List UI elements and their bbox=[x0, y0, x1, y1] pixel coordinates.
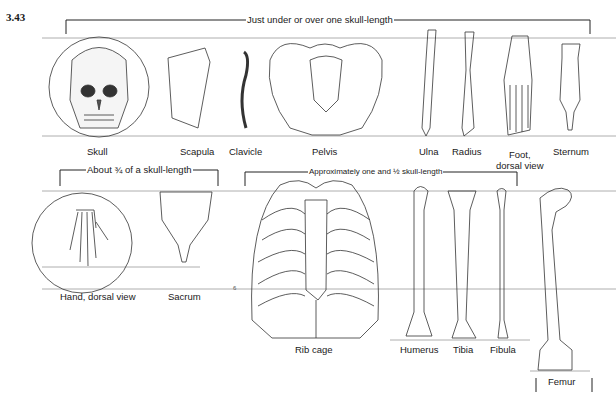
margin-mark: 6 bbox=[233, 285, 236, 291]
hand-circle bbox=[32, 193, 132, 293]
label-radius: Radius bbox=[452, 146, 482, 157]
bone-illustration bbox=[0, 0, 616, 399]
rib-cage-drawing bbox=[252, 181, 379, 338]
sternum-drawing bbox=[560, 44, 580, 130]
label-sacrum: Sacrum bbox=[168, 291, 201, 302]
label-ulna: Ulna bbox=[419, 146, 439, 157]
label-foot: Foot, bbox=[509, 149, 531, 160]
bracket-label-top: Just under or over one skull-length bbox=[246, 14, 394, 25]
radius-drawing bbox=[462, 32, 474, 136]
fibula-drawing bbox=[497, 189, 508, 339]
hand-drawing bbox=[70, 210, 108, 266]
bracket-label-one-and-half: Approximately one and ½ skull-length bbox=[308, 167, 443, 176]
label-fibula: Fibula bbox=[490, 344, 516, 355]
label-clavicle: Clavicle bbox=[229, 146, 262, 157]
label-sternum: Sternum bbox=[553, 146, 589, 157]
tibia-drawing bbox=[448, 191, 476, 338]
label-tibia: Tibia bbox=[453, 344, 473, 355]
scapula-drawing bbox=[168, 48, 210, 128]
label-humerus: Humerus bbox=[400, 344, 439, 355]
pelvis-drawing bbox=[269, 44, 382, 135]
label-pelvis: Pelvis bbox=[312, 146, 337, 157]
ulna-drawing bbox=[422, 30, 436, 136]
bracket-label-three-quarter: About ¾ of a skull-length bbox=[86, 164, 193, 175]
label-hand: Hand, dorsal view bbox=[60, 291, 136, 302]
label-scapula: Scapula bbox=[180, 146, 214, 157]
sacrum-drawing bbox=[160, 192, 212, 262]
label-skull: Skull bbox=[87, 146, 108, 157]
label-foot-view: dorsal view bbox=[496, 160, 544, 171]
femur-drawing bbox=[538, 188, 572, 370]
label-rib-cage: Rib cage bbox=[295, 344, 333, 355]
humerus-drawing bbox=[406, 187, 432, 337]
label-femur: Femur bbox=[548, 376, 575, 387]
